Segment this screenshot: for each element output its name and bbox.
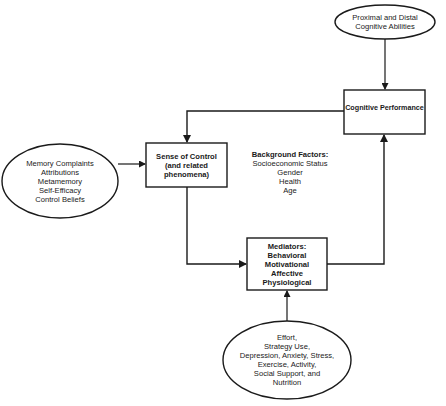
label-line: Socioeconomic Status	[252, 159, 327, 168]
mediators-label: Mediators: Behavioral Motivational Affec…	[247, 238, 327, 290]
label-line: Strategy Use,	[264, 342, 310, 351]
label-line: Social Support, and	[254, 369, 320, 378]
label-line: Exercise, Activity,	[258, 360, 317, 369]
label-line: Physiological	[263, 278, 312, 287]
sense-of-control-label: Sense of Control (and related phenomena)	[146, 143, 227, 187]
label-line: Behavioral	[268, 251, 307, 260]
label-line: Motivational	[265, 260, 309, 269]
label-line: Affective	[271, 269, 303, 278]
label-line: Gender	[277, 168, 302, 177]
edge-sense-to-mediators	[187, 187, 246, 264]
proximal-distal-label: Proximal and Distal Cognitive Abilities	[335, 8, 435, 36]
label-line: Depression, Anxiety, Stress,	[240, 351, 334, 360]
label-line: (and related	[165, 161, 208, 170]
label-line: Cognitive Abilities	[355, 22, 415, 31]
label-line: Control Beliefs	[35, 195, 84, 204]
label-line: Mediators:	[268, 242, 306, 251]
cognitive-performance-label: Cognitive Performance	[344, 90, 425, 134]
background-factors-label: Background Factors: Socioeconomic Status…	[250, 150, 330, 196]
label-line: Memory Complaints	[26, 159, 94, 168]
label-line: Cognitive Performance	[345, 103, 424, 112]
memory-complaints-label: Memory Complaints Attributions Metamemor…	[4, 146, 116, 216]
label-line: Health	[279, 177, 301, 186]
label-line: Metamemory	[38, 177, 82, 186]
label-line: Attributions	[41, 168, 79, 177]
edge-performance-to-sense	[187, 111, 344, 142]
label-line: Sense of Control	[156, 152, 217, 161]
label-line: Proximal and Distal	[352, 13, 417, 22]
label-line: Effort,	[277, 333, 297, 342]
effort-etc-label: Effort, Strategy Use, Depression, Anxiet…	[225, 328, 349, 392]
label-line: phenomena)	[164, 170, 209, 179]
label-line: Age	[283, 186, 297, 195]
edge-mediators-to-performance	[327, 135, 384, 264]
background-factors-title: Background Factors:	[252, 150, 328, 159]
label-line: Self-Efficacy	[39, 186, 81, 195]
label-line: Nutrition	[273, 378, 301, 387]
